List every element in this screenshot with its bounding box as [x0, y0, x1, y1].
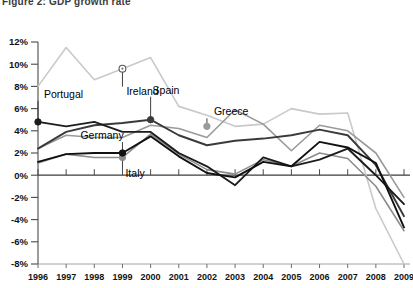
series-line-ireland — [38, 48, 404, 264]
y-tick-label: 8% — [14, 81, 28, 92]
marker-greece — [204, 123, 210, 129]
series-label-italy: Italy — [125, 167, 145, 179]
y-tick-label: 10% — [9, 59, 29, 70]
marker-dot-ireland — [121, 68, 123, 70]
series-label-greece: Greece — [214, 105, 249, 117]
x-tick-label: 2007 — [338, 272, 358, 282]
x-tick-label: 1996 — [28, 272, 48, 282]
x-tick-label: 2002 — [197, 272, 217, 282]
x-tick-label: 2004 — [253, 272, 273, 282]
x-tick-label: 2009 — [394, 272, 413, 282]
marker-germany — [119, 150, 125, 156]
x-tick-label: 1999 — [112, 272, 132, 282]
y-tick-label: -6% — [11, 236, 28, 247]
series-label-portugal: Portugal — [44, 88, 83, 100]
series-label-germany: Germany — [80, 129, 124, 141]
x-tick-label: 2006 — [310, 272, 330, 282]
y-tick-label: -8% — [11, 258, 28, 269]
x-tick-label: 2008 — [366, 272, 386, 282]
x-tick-label: 2001 — [169, 272, 189, 282]
x-tick-label: 2000 — [141, 272, 161, 282]
y-tick-label: -4% — [11, 214, 28, 225]
line-chart-plot: 12%10%8%6%4%2%0%-2%-4%-6%-8%199619971998… — [0, 0, 413, 288]
series-label-spain: Spain — [153, 84, 180, 96]
x-tick-label: 2003 — [225, 272, 245, 282]
marker-spain — [147, 117, 153, 123]
y-tick-label: 4% — [14, 125, 28, 136]
x-tick-label: 2005 — [281, 272, 301, 282]
y-tick-label: -2% — [11, 192, 28, 203]
x-tick-label: 1997 — [56, 272, 76, 282]
chart-svg: 12%10%8%6%4%2%0%-2%-4%-6%-8%199619971998… — [0, 0, 413, 288]
marker-portugal — [35, 119, 41, 125]
y-tick-label: 0% — [14, 170, 28, 181]
y-tick-label: 12% — [9, 36, 29, 47]
y-tick-label: 6% — [14, 103, 28, 114]
x-tick-label: 1998 — [84, 272, 104, 282]
y-tick-label: 2% — [14, 147, 28, 158]
chart-screenshot: Figure 2: GDP growth rate 12%10%8%6%4%2%… — [0, 0, 413, 288]
